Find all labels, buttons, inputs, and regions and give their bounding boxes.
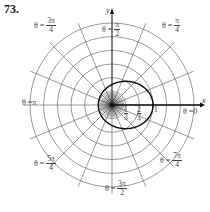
radial-tick-2-3: 23 <box>137 106 141 121</box>
angle-label-3pi-2: θ = 3π2 <box>105 180 127 197</box>
angle-label-5pi-4: θ = 5π4 <box>34 155 56 172</box>
grid-radial-line <box>49 42 112 105</box>
y-axis-arrow-icon <box>110 8 114 14</box>
grid-radial-line <box>49 105 112 168</box>
angle-label-7pi-4: θ = 7π4 <box>160 152 182 169</box>
radial-tick-1-3: 13 <box>124 106 128 121</box>
grid-radial-line <box>112 42 175 105</box>
origin-dot <box>110 103 114 107</box>
radial-tick-1: 1 <box>154 106 158 113</box>
angle-label-pi-2: θ = π2 <box>102 21 120 38</box>
angle-label-pi: θ = π <box>22 98 36 107</box>
y-axis-label: y <box>106 6 110 15</box>
angle-label-pi-4: θ = π4 <box>162 17 180 34</box>
angle-label-0: θ = 0 <box>183 107 197 116</box>
angle-label-3pi-4: θ = 3π4 <box>34 17 56 34</box>
x-axis-label: x <box>202 96 206 105</box>
